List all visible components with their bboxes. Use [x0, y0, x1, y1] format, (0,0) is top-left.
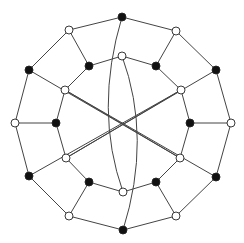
white-node-i2 — [177, 86, 185, 94]
black-node-i3 — [186, 119, 194, 127]
black-node-o6 — [119, 226, 127, 234]
edge-i0-i1 — [122, 56, 156, 66]
edge-o7-o8 — [29, 176, 69, 216]
edge-i1-i2 — [156, 66, 181, 90]
edge-i3-i4 — [180, 123, 190, 158]
edge-layer — [15, 17, 231, 230]
black-node-o0 — [118, 13, 126, 21]
edge-i7-i8 — [66, 158, 89, 182]
black-node-i9 — [52, 119, 60, 127]
white-node-i8 — [62, 154, 70, 162]
white-node-i4 — [176, 154, 184, 162]
edge-i6-i7 — [89, 182, 123, 192]
edge-o11-i11 — [69, 30, 89, 66]
edge-o5-o6 — [123, 216, 176, 230]
edge-o8-i2 — [29, 90, 181, 176]
black-node-i5 — [152, 178, 160, 186]
curved-edge-o0-i6 — [108, 17, 123, 192]
white-node-o5 — [172, 212, 180, 220]
edge-o7-i7 — [69, 182, 89, 216]
edge-o2-o3 — [216, 70, 231, 123]
edge-o1-o2 — [176, 31, 216, 70]
edge-i8-o2 — [66, 70, 216, 158]
white-node-o1 — [172, 27, 180, 35]
black-node-o4 — [212, 173, 220, 181]
black-node-o2 — [212, 66, 220, 74]
edge-i9-i10 — [56, 90, 65, 123]
white-node-i6 — [119, 188, 127, 196]
white-node-o9 — [11, 119, 19, 127]
black-node-i11 — [85, 62, 93, 70]
edge-i2-i3 — [181, 90, 190, 123]
white-node-o11 — [65, 26, 73, 34]
edge-o10-i4 — [29, 70, 180, 158]
black-node-o8 — [25, 172, 33, 180]
white-node-i10 — [61, 86, 69, 94]
edge-i11-i0 — [89, 56, 122, 66]
edge-o10-o11 — [29, 30, 69, 70]
curved-edge-i0-o6 — [122, 56, 137, 230]
edge-i8-i9 — [56, 123, 66, 158]
edge-o1-i1 — [156, 31, 176, 66]
edge-i5-i6 — [123, 182, 156, 192]
white-node-o3 — [227, 119, 235, 127]
edge-o5-i5 — [156, 182, 176, 216]
edge-o11-o0 — [69, 17, 122, 30]
edge-i10-o4 — [65, 90, 216, 177]
edge-o0-o1 — [122, 17, 176, 31]
edge-o8-o9 — [15, 123, 29, 176]
edge-o4-o5 — [176, 177, 216, 216]
edge-o6-o7 — [69, 216, 123, 230]
black-node-i7 — [85, 178, 93, 186]
black-node-o10 — [25, 66, 33, 74]
white-node-i0 — [118, 52, 126, 60]
white-node-o7 — [65, 212, 73, 220]
black-node-i1 — [152, 62, 160, 70]
edge-o3-o4 — [216, 123, 231, 177]
edge-o9-o10 — [15, 70, 29, 123]
edge-i10-i11 — [65, 66, 89, 90]
edge-i4-i5 — [156, 158, 180, 182]
graph-diagram — [0, 0, 244, 243]
